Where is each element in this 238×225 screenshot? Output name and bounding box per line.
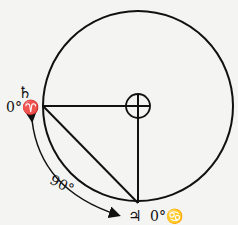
jupiter-label: ♃ [128,207,141,225]
cancer-label: 0°♋ [150,208,183,225]
angle-arc-arrow [32,120,118,215]
aspect-diagram: ♄ 0°♈ 90° ♃ 0°♋ [0,0,238,225]
aries-label: 0°♈ [6,99,39,116]
